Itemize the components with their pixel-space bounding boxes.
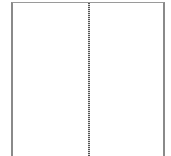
right-column [91, 3, 163, 156]
left-column [13, 3, 88, 156]
page-frame [11, 2, 165, 156]
column-divider [88, 3, 90, 156]
